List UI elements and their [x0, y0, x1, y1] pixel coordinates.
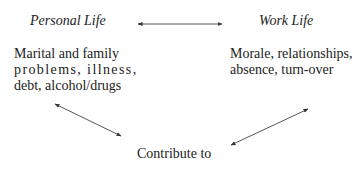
work-life-details: Morale, relationships, absence, turn-ove… [230, 46, 352, 78]
personal-line-3: debt, alcohol/drugs [14, 78, 138, 94]
personal-line-2: problems, illness, [14, 62, 138, 78]
work-life-heading: Work Life [259, 13, 313, 29]
personal-line-1: Marital and family [14, 46, 138, 62]
personal-outcome-arrow [55, 104, 121, 136]
work-outcome-arrow [231, 109, 308, 145]
work-line-1: Morale, relationships, [230, 46, 352, 62]
work-line-2: absence, turn-over [230, 62, 352, 78]
personal-life-heading: Personal Life [30, 13, 106, 29]
personal-life-details: Marital and family problems, illness, de… [14, 46, 138, 94]
outcome-label: Contribute to [137, 146, 211, 162]
